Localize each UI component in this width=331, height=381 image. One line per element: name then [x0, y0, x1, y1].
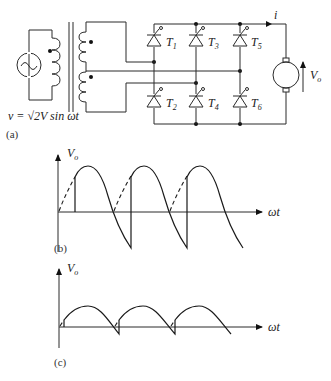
svg-text:Vo: Vo — [67, 146, 78, 162]
thyristor-T1: T1 — [146, 27, 177, 52]
thyristor-T5: T5 — [232, 27, 262, 52]
output-voltage-label: Vo — [310, 68, 321, 84]
panel-a-label: (a) — [6, 128, 19, 141]
waveform-c: Vo ωt (c) — [54, 261, 280, 369]
polarity-dot — [89, 40, 93, 44]
source-equation: v = √2V sin ωt — [8, 109, 80, 123]
svg-text:T4: T4 — [208, 96, 219, 112]
figure-canvas: T1 T2 T3 T4 T5 — [0, 0, 331, 381]
current-label: i — [274, 8, 277, 22]
svg-text:T2: T2 — [166, 96, 177, 112]
transformer-primary — [48, 30, 60, 100]
panel-c-label: (c) — [54, 356, 67, 369]
dc-motor — [273, 24, 299, 124]
svg-text:T6: T6 — [251, 96, 262, 112]
transformer-core — [69, 22, 73, 112]
polarity-dot — [48, 49, 52, 53]
svg-text:Vo: Vo — [67, 261, 78, 277]
circuit-diagram: T1 T2 T3 T4 T5 — [6, 8, 321, 141]
x-axis-label: ωt — [268, 205, 280, 219]
thyristor-T3: T3 — [188, 27, 219, 52]
thyristor-T6: T6 — [232, 88, 262, 113]
waveform-b: Vo ωt (b) — [54, 146, 280, 255]
polarity-dot — [89, 75, 93, 79]
panel-b-label: (b) — [54, 242, 67, 255]
motor-icon — [273, 62, 299, 88]
thyristor-T4: T4 — [188, 88, 219, 113]
svg-text:T3: T3 — [208, 35, 219, 51]
svg-text:T5: T5 — [251, 35, 262, 51]
thyristor-T2: T2 — [146, 88, 177, 113]
ac-source — [17, 30, 52, 100]
svg-text:T1: T1 — [166, 35, 177, 51]
x-axis-label: ωt — [268, 320, 280, 334]
current-arrow-icon — [266, 21, 272, 27]
